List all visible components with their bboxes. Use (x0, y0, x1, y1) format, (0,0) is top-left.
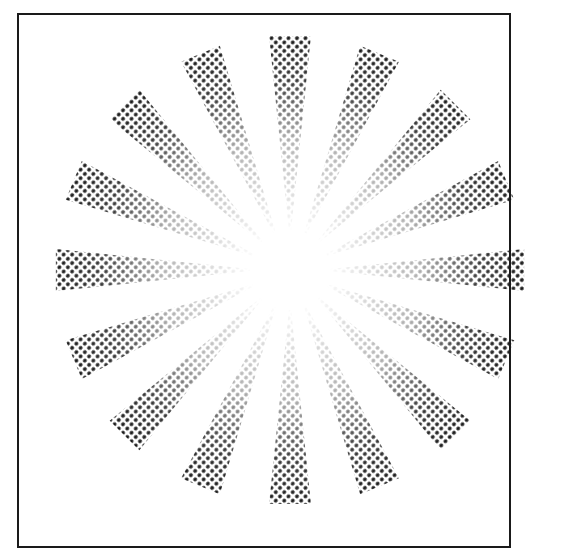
halftone-starburst (0, 0, 565, 559)
starburst-rays (56, 36, 524, 504)
starburst-ray (269, 36, 311, 230)
starburst-ray (330, 249, 524, 291)
starburst-ray (269, 310, 311, 504)
starburst-ray (56, 249, 250, 291)
